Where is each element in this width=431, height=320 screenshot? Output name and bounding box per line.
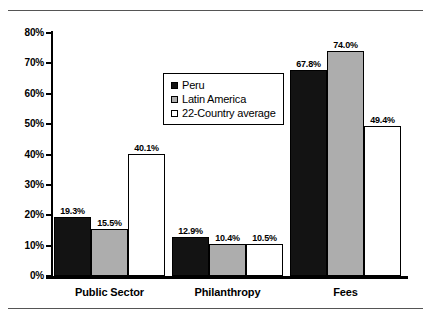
y-axis-tick-label-wrap: 60%: [0, 89, 44, 99]
bar[interactable]: 67.8%: [290, 70, 327, 276]
y-axis-tick-label-wrap: 20%: [0, 210, 44, 220]
y-axis-tick: [46, 245, 52, 247]
bar[interactable]: 15.5%: [91, 229, 128, 276]
y-axis-tick-label: 20%: [0, 210, 44, 220]
y-axis-tick-label-wrap: 80%: [0, 28, 44, 38]
x-axis-category-label: Public Sector: [54, 286, 165, 298]
bar[interactable]: 74.0%: [327, 51, 364, 276]
y-axis-tick-label: 30%: [0, 180, 44, 190]
y-axis-tick: [46, 275, 52, 277]
bar-value-label: 10.5%: [252, 233, 277, 243]
bar[interactable]: 40.1%: [128, 154, 165, 276]
y-axis-tick: [46, 154, 52, 156]
bar-chart-figure: 80%70%60%50%40%30%20%10%0% 19.3%15.5%40.…: [0, 0, 431, 320]
y-axis-tick-label-wrap: 0%: [0, 271, 44, 281]
bar[interactable]: 49.4%: [364, 126, 401, 276]
bar-value-label: 10.4%: [215, 233, 240, 243]
y-axis-tick-label: 80%: [0, 28, 44, 38]
bar[interactable]: 12.9%: [172, 237, 209, 276]
bar[interactable]: 10.4%: [209, 244, 246, 276]
y-axis-tick-label-wrap: 50%: [0, 119, 44, 129]
y-axis-tick: [46, 62, 52, 64]
x-axis-category-label: Philanthropy: [172, 286, 283, 298]
legend-item-peru: Peru: [171, 78, 277, 92]
legend-label-22-country-average: 22-Country average: [182, 107, 276, 119]
y-axis-tick-label: 50%: [0, 119, 44, 129]
bar-value-label: 12.9%: [178, 226, 203, 236]
legend-swatch-icon-latin-america: [171, 96, 178, 103]
legend-swatch-icon-peru: [171, 82, 178, 89]
bar[interactable]: 10.5%: [246, 244, 283, 276]
bar-group: 19.3%15.5%40.1%: [54, 33, 165, 276]
legend-label-latin-america: Latin America: [182, 93, 246, 105]
y-axis-tick: [46, 184, 52, 186]
x-axis-category-label: Fees: [290, 286, 401, 298]
y-axis-tick: [46, 32, 52, 34]
y-axis-tick-label-wrap: 10%: [0, 241, 44, 251]
bar-group: 67.8%74.0%49.4%: [290, 33, 401, 276]
y-axis-tick-label-wrap: 70%: [0, 58, 44, 68]
legend-label-peru: Peru: [182, 79, 204, 91]
y-axis-tick: [46, 214, 52, 216]
bottom-divider-rule: [8, 308, 423, 309]
chart-legend: Peru Latin America 22-Country average: [163, 73, 284, 125]
legend-swatch-icon-22-country-average: [171, 110, 178, 117]
y-axis-tick-label: 10%: [0, 241, 44, 251]
y-axis-tick-label-wrap: 40%: [0, 150, 44, 160]
bar-value-label: 67.8%: [296, 59, 321, 69]
top-divider-rule: [8, 10, 423, 11]
bar-group: 12.9%10.4%10.5%: [172, 33, 283, 276]
x-axis-line: [46, 276, 408, 279]
legend-item-latin-america: Latin America: [171, 92, 277, 106]
y-axis-tick-label: 70%: [0, 58, 44, 68]
y-axis-tick-label: 40%: [0, 150, 44, 160]
bar-value-label: 15.5%: [97, 218, 122, 228]
bar-value-label: 40.1%: [134, 143, 159, 153]
bar-value-label: 74.0%: [333, 40, 358, 50]
bar-value-label: 19.3%: [60, 206, 85, 216]
y-axis-tick-label: 0%: [0, 271, 44, 281]
y-axis-tick-label-wrap: 30%: [0, 180, 44, 190]
y-axis-tick-label: 60%: [0, 89, 44, 99]
y-axis-tick: [46, 123, 52, 125]
bar-value-label: 49.4%: [370, 115, 395, 125]
y-axis-tick: [46, 93, 52, 95]
bar[interactable]: 19.3%: [54, 217, 91, 276]
legend-item-22-country-average: 22-Country average: [171, 106, 277, 120]
